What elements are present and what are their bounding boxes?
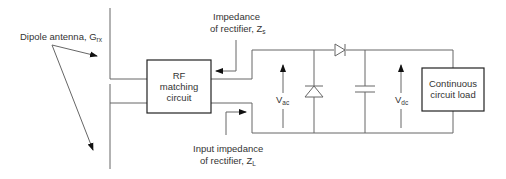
load-label: Continuous circuit load: [422, 78, 484, 100]
rf-matching-label: RF matching circuit: [147, 70, 211, 103]
series-diode: [335, 44, 345, 56]
zl-label-line1: Input impedance: [193, 143, 263, 154]
antenna-arrow-lower: [52, 45, 93, 150]
capacitor: [355, 86, 375, 92]
shunt-diode: [305, 86, 323, 97]
zl-label-line2: of rectifier, ZL: [200, 155, 256, 169]
zs-arrow: [216, 40, 236, 71]
zs-label-line1: Impedance: [213, 11, 260, 22]
zl-arrow: [226, 112, 246, 135]
vac-label: Vac: [276, 93, 289, 109]
vdc-label: Vdc: [395, 93, 408, 109]
antenna-arrow-upper: [52, 45, 97, 56]
zs-label-line2: of rectifier, Zs: [210, 23, 266, 37]
antenna-label: Dipole antenna, Grx: [20, 31, 102, 45]
